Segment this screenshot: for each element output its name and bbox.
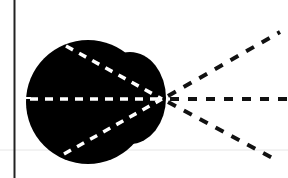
outer-rays (168, 32, 288, 160)
diagram-canvas (0, 0, 288, 178)
outer-ray-top (168, 32, 280, 96)
black-blob (26, 40, 166, 164)
outer-ray-bottom (168, 102, 276, 160)
